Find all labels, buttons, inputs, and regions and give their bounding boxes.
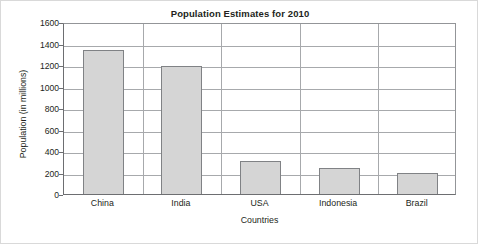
y-tick-label: 0 <box>25 190 59 200</box>
category-separator <box>378 24 379 194</box>
y-axis-tick-labels: 02004006008001000120014001600 <box>21 23 59 195</box>
x-tick-label-usa: USA <box>250 198 268 208</box>
category-separator <box>143 24 144 194</box>
y-tick-label: 1600 <box>25 18 59 28</box>
gridline <box>64 46 455 47</box>
y-tick-label: 400 <box>25 147 59 157</box>
category-separator <box>221 24 222 194</box>
category-separator <box>300 24 301 194</box>
x-axis-tick-labels: ChinaIndiaUSAIndonesiaBrazil <box>63 198 456 212</box>
y-tick-label: 1200 <box>25 61 59 71</box>
y-tick-label: 200 <box>25 169 59 179</box>
bar-india <box>161 66 202 194</box>
y-tick-label: 800 <box>25 104 59 114</box>
chart-title: Population Estimates for 2010 <box>1 8 478 19</box>
x-tick-label-brazil: Brazil <box>406 198 428 208</box>
bar-usa <box>240 161 281 194</box>
bar-indonesia <box>319 168 360 194</box>
y-tick-mark <box>59 195 63 196</box>
bar-brazil <box>397 173 438 194</box>
y-tick-label: 600 <box>25 126 59 136</box>
y-tick-label: 1400 <box>25 40 59 50</box>
chart-figure: Population Estimates for 2010 Population… <box>0 0 478 244</box>
x-axis-title: Countries <box>63 215 456 225</box>
y-tick-label: 1000 <box>25 83 59 93</box>
x-tick-label-india: India <box>171 198 190 208</box>
x-tick-label-china: China <box>91 198 114 208</box>
bar-china <box>83 50 124 194</box>
x-tick-label-indonesia: Indonesia <box>319 198 357 208</box>
plot-area <box>63 23 456 195</box>
